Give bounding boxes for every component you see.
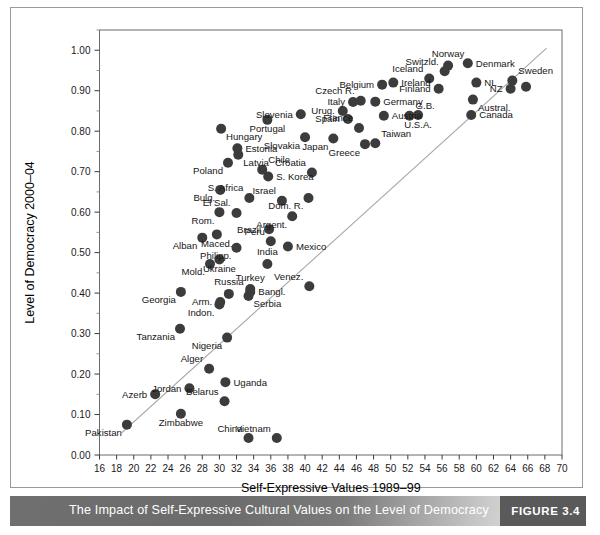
caption-bar: The Impact of Self-Expressive Cultural V… (10, 496, 586, 526)
figure-number-label: FIGURE 3.4 (511, 505, 580, 517)
caption-title: The Impact of Self-Expressive Cultural V… (69, 503, 489, 517)
figure-container: PakistanAzerbZimbabweTanzaniaGeorgiaJord… (0, 0, 600, 535)
chart-panel (10, 7, 583, 488)
